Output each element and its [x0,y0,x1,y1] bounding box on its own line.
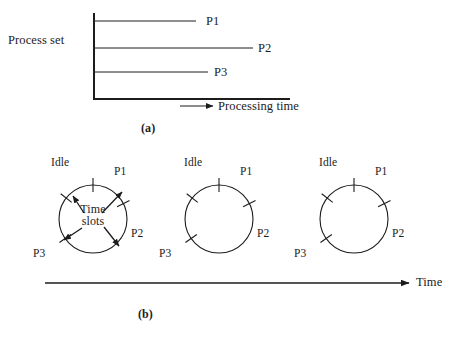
panel-a-vectors [93,13,290,106]
time-slots-annotation: Time slots [71,203,115,227]
circle-3-label-p3: P3 [294,248,306,260]
circle-1-p3-tick [61,194,72,203]
circle-1-label-p2: P2 [131,228,143,240]
panel-b-vectors [45,178,409,283]
process-label-p1: P1 [206,15,219,28]
circle-2-outline [185,185,253,253]
circle-1-label-p1: P1 [114,166,126,178]
circle-3-label-p1: P1 [375,166,387,178]
vector-layer [0,0,460,340]
circle-3-p1-tick [378,200,390,206]
process-label-p3: P3 [214,66,227,79]
circle-3-label-idle: Idle [319,157,337,169]
processing-time-axis-label: Processing time [218,100,299,113]
circle-1-arrow-p3 [64,228,82,240]
circle-3-p2-tick [320,234,331,242]
circle-1-arrow-p2 [104,227,119,246]
circle-2-p3-tick [187,194,198,203]
circle-1-label-idle: Idle [51,157,69,169]
process-set-axis-label: Process set [8,34,64,47]
caption-b: (b) [138,308,153,320]
circle-2-label-p2: P2 [257,228,269,240]
process-label-p2: P2 [258,42,271,55]
circle-2-p2-tick [185,234,196,242]
circle-3-outline [320,185,388,253]
figure-root: Process set Processing time P1P2P3 (a) I… [0,0,460,340]
caption-a: (a) [141,122,155,134]
circle-1-label-p3: P3 [33,248,45,260]
circle-3-p3-tick [322,194,333,203]
time-axis-label: Time [416,276,442,289]
circle-2-label-p3: P3 [159,248,171,260]
circle-2-label-p1: P1 [240,166,252,178]
circle-1-p1-tick [117,200,129,206]
circle-2-p1-tick [243,200,255,206]
circle-3-label-p2: P2 [392,228,404,240]
circle-2-label-idle: Idle [184,157,202,169]
time-slots-line2: slots [82,214,105,228]
